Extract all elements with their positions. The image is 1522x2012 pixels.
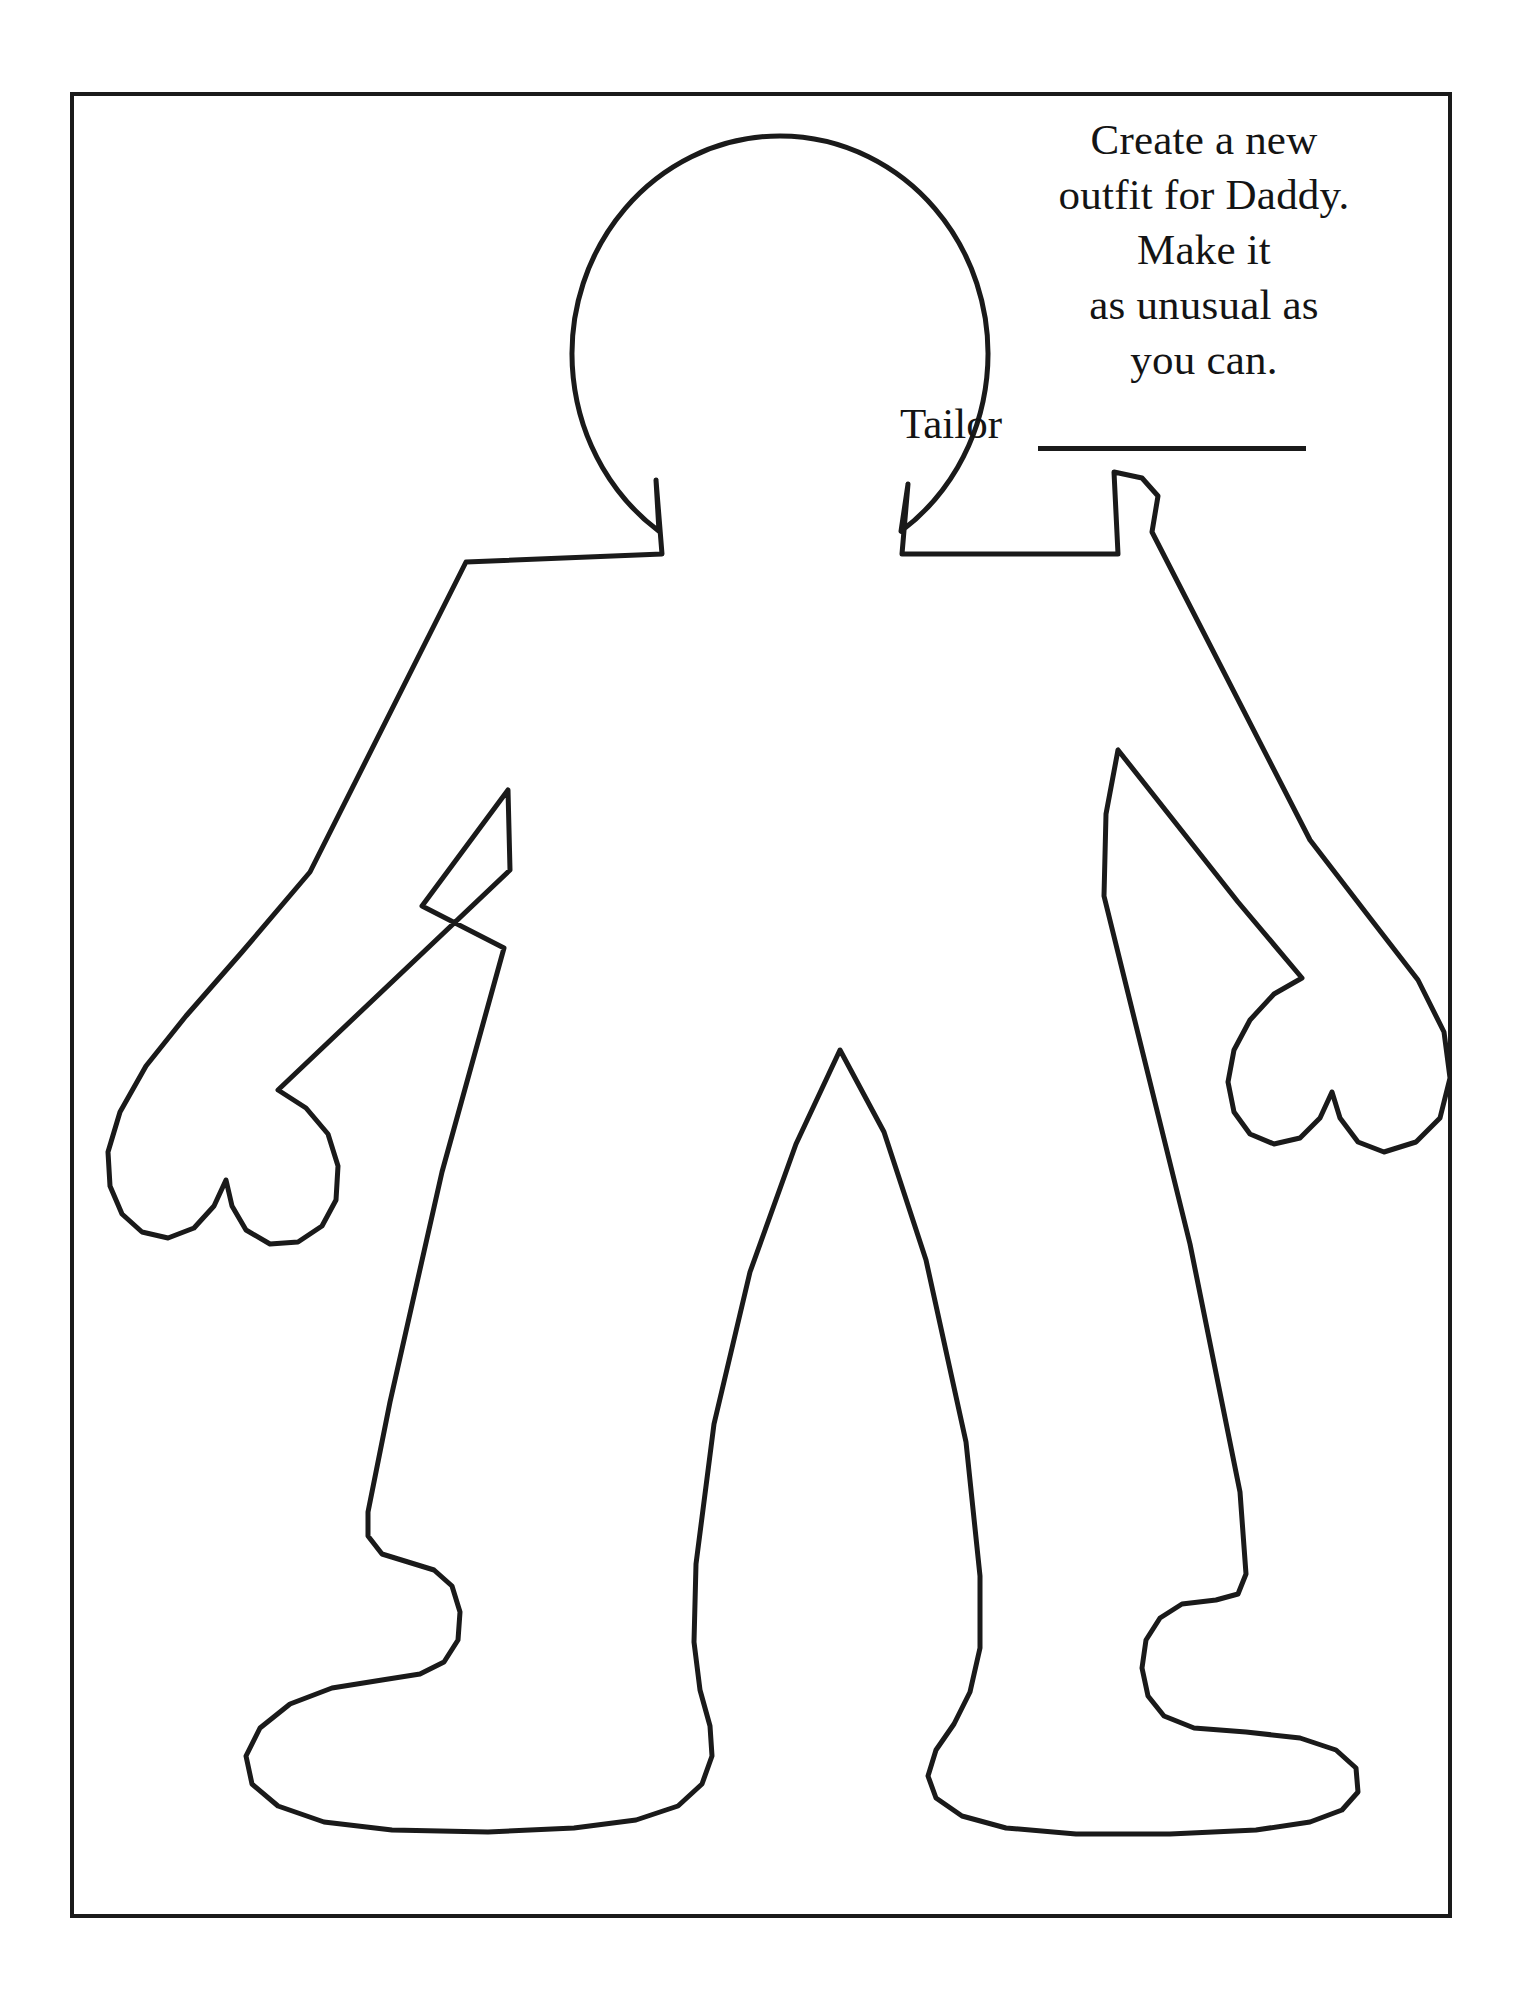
instruction-line-2: outfit for Daddy. — [964, 167, 1444, 222]
tailor-blank-line[interactable] — [1038, 446, 1306, 451]
instruction-text: Create a new outfit for Daddy. Make it a… — [964, 112, 1444, 387]
figure-silhouette[interactable] — [108, 136, 1450, 1834]
tailor-field[interactable]: Tailor — [900, 402, 1460, 462]
worksheet-page: Create a new outfit for Daddy. Make it a… — [0, 0, 1522, 2012]
instruction-line-3: Make it — [964, 222, 1444, 277]
tailor-label: Tailor — [900, 402, 1002, 445]
instruction-line-5: you can. — [964, 332, 1444, 387]
instruction-line-1: Create a new — [964, 112, 1444, 167]
instruction-line-4: as unusual as — [964, 277, 1444, 332]
